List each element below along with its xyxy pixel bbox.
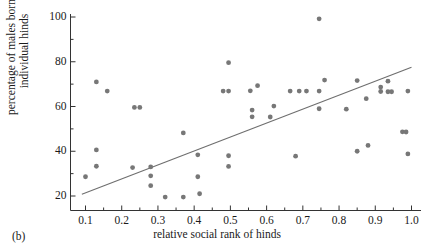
data-point: [405, 89, 410, 94]
data-point: [255, 83, 260, 88]
data-point: [405, 152, 410, 157]
data-point: [137, 105, 142, 110]
data-point: [248, 88, 253, 93]
data-point: [226, 60, 231, 65]
tick-marks: [71, 17, 412, 211]
data-point: [317, 89, 322, 94]
x-tick-label: 1.0: [404, 215, 418, 227]
x-tick-label: 0.1: [78, 215, 92, 227]
data-point: [389, 89, 394, 94]
data-point: [378, 89, 383, 94]
panel-label: (b): [12, 230, 25, 242]
data-point: [94, 148, 99, 153]
axes: [71, 14, 422, 211]
x-tick-label: 0.5: [223, 215, 237, 227]
x-tick-label: 0.8: [332, 215, 346, 227]
data-point: [317, 16, 322, 21]
x-tick-label: 0.7: [296, 215, 310, 227]
data-point: [226, 89, 231, 94]
data-point: [105, 89, 110, 94]
data-point: [181, 195, 186, 200]
data-point: [293, 154, 298, 159]
trend-line: [82, 67, 412, 194]
y-axis-title-line-1: percentage of males born to: [5, 0, 18, 151]
data-points: [83, 16, 410, 199]
y-tick-label: 100: [49, 11, 66, 23]
data-point: [181, 131, 186, 136]
x-tick-label: 0.9: [368, 215, 382, 227]
data-point: [317, 106, 322, 111]
data-point: [94, 164, 99, 169]
data-point: [197, 191, 202, 196]
data-point: [148, 173, 153, 178]
data-point: [130, 165, 135, 170]
y-tick-label: 80: [55, 56, 67, 68]
data-point: [322, 78, 327, 83]
data-point: [148, 165, 153, 170]
data-point: [132, 105, 137, 110]
x-tick-label: 0.6: [259, 215, 273, 227]
y-axis-title-line-2: individual hinds: [18, 0, 31, 151]
data-point: [195, 152, 200, 157]
data-point: [221, 89, 226, 94]
data-point: [355, 149, 360, 154]
data-point: [288, 89, 293, 94]
x-tick-label: 0.2: [115, 215, 129, 227]
scatter-plot-figure: 204060801000.10.20.30.40.50.60.70.80.91.…: [0, 0, 434, 251]
data-point: [226, 153, 231, 158]
y-tick-label: 40: [55, 146, 67, 158]
data-point: [297, 89, 302, 94]
data-point: [364, 96, 369, 101]
x-tick-label: 0.3: [151, 215, 165, 227]
data-point: [344, 107, 349, 112]
data-point: [226, 164, 231, 169]
data-point: [268, 115, 273, 120]
data-point: [304, 89, 309, 94]
data-point: [378, 85, 383, 90]
x-tick-label: 0.4: [187, 215, 201, 227]
data-point: [250, 108, 255, 113]
data-point: [94, 79, 99, 84]
data-point: [195, 174, 200, 179]
data-point: [83, 174, 88, 179]
data-point: [163, 195, 168, 200]
y-axis-title: percentage of males born to individual h…: [5, 0, 31, 151]
data-point: [271, 104, 276, 109]
data-point: [404, 130, 409, 135]
data-point: [366, 143, 371, 148]
data-point: [386, 79, 391, 84]
x-axis-title: relative social rank of hinds: [0, 228, 434, 240]
data-point: [148, 183, 153, 188]
data-point: [250, 114, 255, 119]
data-point: [355, 78, 360, 83]
y-tick-label: 60: [55, 101, 67, 113]
y-tick-label: 20: [55, 190, 67, 202]
